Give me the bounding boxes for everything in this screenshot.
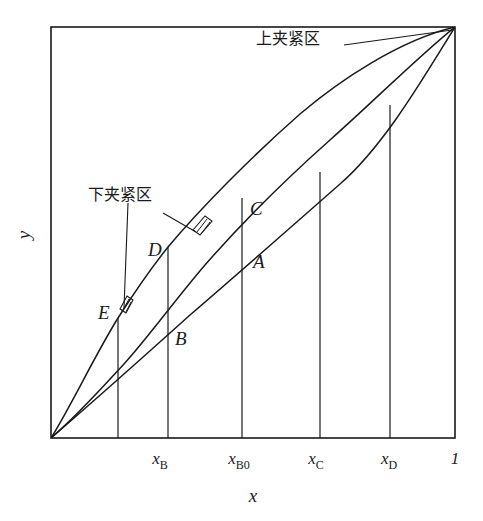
x-axis-label: x [248,485,258,506]
point-label-E: E [97,302,110,323]
x-tick-xD-sub: D [388,458,397,472]
x-tick-xB-sub: B [160,458,168,472]
x-tick-xD: xD [380,449,398,472]
x-tick-xC-sub: C [316,458,324,472]
curve-middle [51,27,455,438]
point-label-B: B [175,328,187,349]
point-label-D: D [147,239,162,260]
lower-clamp-zone-label: 下夹紧区 [88,185,152,204]
upper-clamp-zone-label: 上夹紧区 [256,29,320,48]
point-label-A: A [251,251,265,272]
x-tick-xB: xB [151,449,168,472]
figure-container: 上夹紧区 下夹紧区 A B C D E xB xB0 xC xD 1 x y [0,0,483,521]
clamp-sliver-E [120,296,133,313]
diagram-svg: 上夹紧区 下夹紧区 A B C D E xB xB0 xC xD 1 x y [0,0,483,521]
x-tick-labels: xB xB0 xC xD 1 [151,449,459,472]
x-tick-one: 1 [451,449,460,468]
x-tick-xB0-sub: B0 [236,458,250,472]
x-tick-xB0: xB0 [227,449,250,472]
point-label-C: C [250,198,263,219]
x-tick-xC: xC [307,449,324,472]
curve-upper [51,27,455,438]
y-axis-label: y [13,230,34,241]
plot-frame [51,27,455,438]
curve-lower [51,27,455,438]
